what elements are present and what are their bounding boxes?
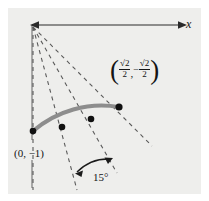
coordinate-close-paren: ) bbox=[150, 55, 159, 85]
coordinate-y-denominator: 2 bbox=[139, 70, 150, 80]
ray-45-deg bbox=[33, 27, 152, 146]
dashed-rays bbox=[33, 27, 152, 190]
coordinate-x-denominator: 2 bbox=[119, 70, 130, 80]
figure-container: x (0, −1) 15° (√22,−√22) bbox=[0, 0, 209, 201]
coordinate-x-fraction: √22 bbox=[119, 59, 130, 79]
coordinate-open-paren: ( bbox=[110, 55, 119, 85]
point-45-deg bbox=[115, 103, 122, 110]
coordinate-point-label: (√22,−√22) bbox=[110, 56, 159, 83]
x-axis bbox=[32, 21, 187, 29]
coordinate-y-fraction: √22 bbox=[139, 59, 150, 79]
coordinate-comma: , bbox=[130, 67, 133, 79]
point-30-deg bbox=[88, 116, 95, 123]
angle-step-label: 15° bbox=[93, 172, 108, 183]
unit-circle-arc bbox=[33, 106, 119, 131]
point-0-deg bbox=[30, 128, 37, 135]
origin-point-label: (0, −1) bbox=[14, 148, 44, 159]
x-axis-label: x bbox=[186, 18, 191, 30]
ray-30-deg bbox=[33, 27, 117, 173]
point-15-deg bbox=[59, 124, 66, 131]
